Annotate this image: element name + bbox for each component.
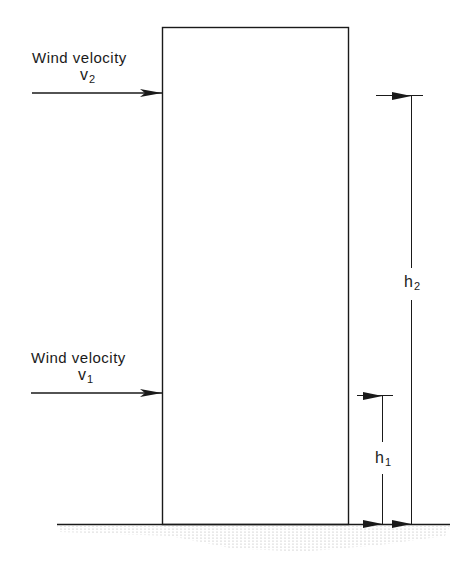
h2-label: h2 <box>404 273 420 292</box>
wind-lower-label: Wind velocity <box>31 349 126 366</box>
wind-upper-label: Wind velocity <box>32 49 127 66</box>
building-outline <box>163 28 349 525</box>
h1-label: h1 <box>375 449 391 468</box>
ground-hatching <box>57 526 450 552</box>
wind-upper-symbol: v2 <box>80 66 95 85</box>
diagram-canvas <box>0 0 470 574</box>
wind-lower-symbol: v1 <box>78 366 93 385</box>
